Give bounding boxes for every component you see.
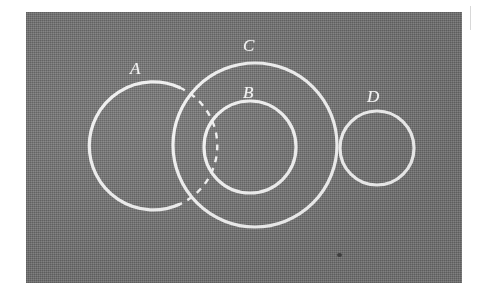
label-set-d: D — [367, 88, 379, 105]
scan-artifact-speck — [337, 253, 342, 257]
label-set-c: C — [243, 37, 254, 54]
circle-d — [340, 111, 414, 185]
figure-root: A C B D — [0, 0, 482, 297]
circle-c — [173, 63, 337, 227]
label-set-a: A — [130, 60, 140, 77]
circle-a-solid-arc — [89, 82, 179, 210]
diagram-panel: A C B D — [26, 12, 462, 283]
page-edge-mark — [470, 6, 471, 30]
label-set-b: B — [243, 84, 253, 101]
